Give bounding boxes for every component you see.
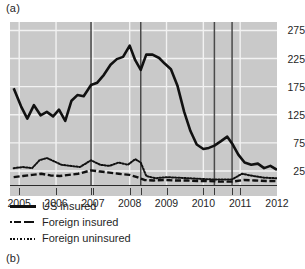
solid-line-swatch-icon xyxy=(10,200,36,212)
series-line xyxy=(14,46,277,170)
legend-item-foreign-insured: Foreign insured xyxy=(10,214,260,230)
x-tick-mark xyxy=(240,188,241,195)
legend-item-foreign-uninsured: Foreign uninsured xyxy=(10,230,260,246)
chart-legend: US insured Foreign insured Foreign unins… xyxy=(10,198,260,246)
y-tick-label: 275 xyxy=(279,24,305,36)
x-tick-mark xyxy=(167,188,168,195)
legend-label: Foreign insured xyxy=(42,216,118,228)
x-event-tick-mark xyxy=(91,188,92,195)
y-tick-label: 75 xyxy=(279,137,305,149)
legend-label: US insured xyxy=(42,200,96,212)
x-tick-mark xyxy=(19,188,20,195)
legend-item-us-insured: US insured xyxy=(10,198,260,214)
y-tick-label: 175 xyxy=(279,81,305,93)
y-tick-label: 225 xyxy=(279,53,305,65)
x-tick-mark xyxy=(203,188,204,195)
x-axis-tick-strip xyxy=(10,185,277,196)
y-axis-tick-labels: 2575125175225275 xyxy=(279,22,305,185)
legend-label: Foreign uninsured xyxy=(42,232,131,244)
x-tick-mark xyxy=(56,188,57,195)
y-tick-label: 125 xyxy=(279,109,305,121)
dotted-line-swatch-icon xyxy=(10,232,36,244)
plot-area xyxy=(10,22,277,185)
panel-b-label: (b) xyxy=(6,252,20,264)
x-event-tick-mark xyxy=(214,188,215,195)
x-tick-label: 2012 xyxy=(265,197,288,209)
x-tick-mark xyxy=(130,188,131,195)
x-tick-mark xyxy=(93,188,94,195)
dashed-line-swatch-icon xyxy=(10,216,36,228)
x-event-tick-mark xyxy=(141,188,142,195)
series-layer xyxy=(10,22,277,185)
x-event-tick-mark xyxy=(232,188,233,195)
panel-a-label: (a) xyxy=(6,2,20,14)
line-chart-figure: 2575125175225275 20052006200720082009201… xyxy=(0,18,305,188)
y-tick-label: 25 xyxy=(279,165,305,177)
